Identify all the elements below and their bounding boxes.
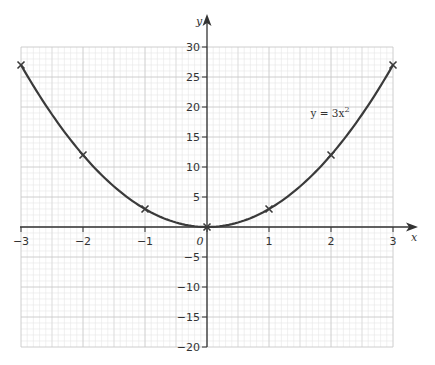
y-tick-label: −5 — [184, 251, 200, 264]
axes — [20, 14, 418, 347]
x-tick-label: −3 — [13, 235, 29, 248]
x-tick-label: −2 — [75, 235, 91, 248]
y-tick-label: −10 — [177, 281, 200, 294]
curve-label-exponent: 2 — [344, 105, 349, 114]
y-tick-label: 15 — [186, 131, 200, 144]
curve-label: y = 3x2 — [309, 105, 349, 119]
origin-label: 0 — [197, 235, 204, 248]
x-tick-label: 3 — [390, 235, 397, 248]
y-tick-label: −15 — [177, 311, 200, 324]
y-tick-label: 20 — [186, 101, 200, 114]
y-tick-label: 25 — [186, 71, 200, 84]
y-axis-label: y — [195, 15, 203, 28]
x-tick-label: −1 — [137, 235, 153, 248]
curve-label-main: y = 3x — [309, 107, 344, 119]
x-tick-label: 1 — [266, 235, 273, 248]
y-tick-label: 30 — [186, 41, 200, 54]
y-tick-label: 5 — [193, 191, 200, 204]
x-axis-label: x — [411, 231, 418, 244]
chart: −3−2−112330252015105−5−10−15−20 x y 0 y … — [0, 0, 435, 365]
y-tick-label: 10 — [186, 161, 200, 174]
y-tick-label: −20 — [177, 341, 200, 354]
x-tick-label: 2 — [328, 235, 335, 248]
